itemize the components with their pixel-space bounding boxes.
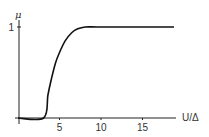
plot-area: 510151 U/Δ μ	[0, 0, 209, 137]
axes	[15, 20, 176, 124]
x-tick-label: 10	[95, 122, 107, 133]
x-tick-label: 15	[137, 122, 149, 133]
y-axis-label: μ	[15, 9, 22, 20]
x-tick-label: 5	[57, 122, 63, 133]
y-tick-label: 1	[8, 22, 14, 33]
data-line	[18, 27, 174, 120]
ticks: 510151	[8, 22, 148, 134]
chart: 510151 U/Δ μ	[0, 0, 209, 137]
x-axis-label: U/Δ	[182, 112, 199, 123]
